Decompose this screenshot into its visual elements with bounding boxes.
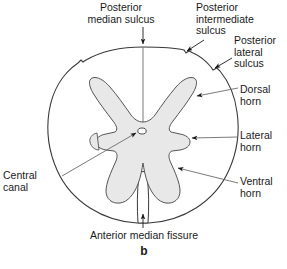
label-central-canal: Central canal (3, 170, 63, 193)
panel-label: b (124, 246, 164, 258)
spinal-cord-figure: Posterior median sulcus Posterior interm… (0, 0, 287, 269)
label-posterior-median-sulcus: Posterior median sulcus (62, 2, 180, 25)
label-posterior-lateral-sulcus: Posterior lateral sulcus (234, 35, 286, 70)
label-ventral-horn: Ventral horn (240, 176, 286, 199)
label-anterior-median-fissure: Anterior median fissure (68, 230, 220, 242)
posterior-lateral-sulcus-leader (215, 58, 232, 68)
label-posterior-intermediate-sulcus: Posterior intermediate sulcus (196, 2, 286, 37)
label-lateral-horn: Lateral horn (240, 130, 286, 153)
central-canal-opening (138, 128, 146, 134)
label-dorsal-horn: Dorsal horn (240, 84, 286, 107)
posterior-intermediate-sulcus-leader (187, 40, 204, 51)
